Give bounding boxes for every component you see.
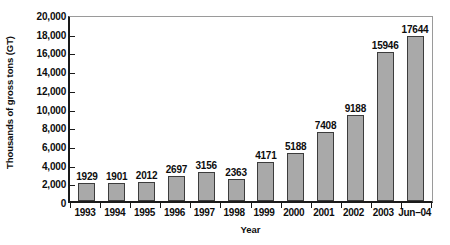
bar-slot: 5188 [281,17,311,201]
bar-slot: 2012 [132,17,162,201]
bar [228,179,245,201]
bar-slot: 1901 [102,17,132,201]
y-axis-tick-mark [70,36,75,37]
y-axis-tick-mark [70,54,75,55]
plot-area: 1929190120122697315623634171518874089188… [68,16,433,203]
bar-value-label: 5188 [285,141,306,152]
y-axis-tick-mark [70,129,75,130]
y-axis-tick-label: 14,000 [20,67,66,78]
x-axis-tick-label: Jun–04 [398,207,431,218]
bar-value-label: 15946 [372,40,399,51]
bar-value-label: 7408 [315,120,336,131]
bar-value-label: 9188 [345,103,366,114]
bar [317,132,334,201]
bar [377,52,394,201]
bar-value-label: 3156 [195,160,216,171]
x-axis-tick-label: 2000 [279,207,309,218]
bar-value-label: 1901 [106,171,127,182]
y-axis-tick-mark [70,111,75,112]
x-axis-tick-label: 2001 [309,207,339,218]
y-axis-tick-label: 8,000 [20,123,66,134]
bar-slot: 2697 [161,17,191,201]
y-axis-tick-labels: 02,0004,0006,0008,00010,00012,00014,0001… [16,0,66,245]
y-axis-tick-mark [70,185,75,186]
bar-slot: 7408 [311,17,341,201]
bar [257,162,274,201]
bar-slot: 4171 [251,17,281,201]
y-axis-tick-label: 4,000 [20,160,66,171]
y-axis-tick-label: 10,000 [20,104,66,115]
bar [198,172,215,202]
bar [347,115,364,201]
y-axis-tick-label: 20,000 [20,11,66,22]
y-axis-tick-label: 2,000 [20,179,66,190]
y-axis-tick-label: 0 [20,198,66,209]
y-axis-tick-label: 6,000 [20,141,66,152]
bar-slot: 9188 [340,17,370,201]
bar-slot: 1929 [72,17,102,201]
bar [407,36,424,201]
y-axis-tick-label: 18,000 [20,29,66,40]
bar-slot: 2363 [221,17,251,201]
x-axis-tick-label: 1998 [219,207,249,218]
y-axis-tick-mark [70,148,75,149]
y-axis-tick-mark [70,167,75,168]
bar-value-label: 2012 [136,170,157,181]
y-axis-tick-mark [70,73,75,74]
bar-slot: 17644 [400,17,430,201]
bar-value-label: 17644 [402,24,429,35]
bar [78,183,95,201]
bar [287,153,304,202]
x-axis-tick-label: 1996 [160,207,190,218]
x-axis-tick-label: 1993 [70,207,100,218]
x-axis-tick-label: 2003 [368,207,398,218]
x-axis-tick-label: 2002 [339,207,369,218]
bar-slot: 15946 [370,17,400,201]
bar-value-label: 4171 [255,150,276,161]
bar [138,182,155,201]
bar-chart: Thousands of gross tons (GT) 02,0004,000… [0,0,450,245]
x-axis-tick-label: 1994 [100,207,130,218]
bar-value-label: 1929 [76,171,97,182]
bar-value-label: 2363 [225,167,246,178]
x-axis-tick-labels: 1993199419951996199719981999200020012002… [68,207,433,218]
y-axis-tick-mark [70,92,75,93]
bar [108,183,125,201]
bars-container: 1929190120122697315623634171518874089188… [70,17,432,201]
x-axis-title: Year [68,224,433,235]
x-axis-tick-label: 1995 [130,207,160,218]
bar-slot: 3156 [191,17,221,201]
bar [168,176,185,201]
x-axis-tick-label: 1999 [249,207,279,218]
bar-value-label: 2697 [166,164,187,175]
x-axis-tick-label: 1997 [189,207,219,218]
y-axis-tick-label: 16,000 [20,48,66,59]
y-axis-tick-label: 12,000 [20,85,66,96]
y-axis-title-text: Thousands of gross tons (GT) [4,36,15,169]
